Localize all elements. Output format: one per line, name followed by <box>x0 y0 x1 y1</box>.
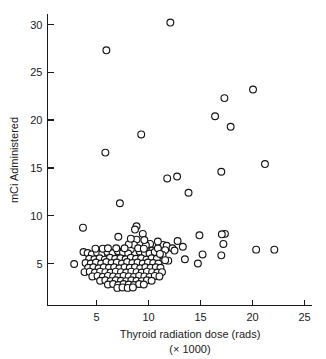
y-tick-label: 20 <box>30 114 42 126</box>
x-axis-title-multiplier: (× 1000) <box>169 343 210 355</box>
y-tick-label: 15 <box>30 162 42 174</box>
data-point <box>127 235 134 242</box>
x-tick-label: 25 <box>298 311 310 323</box>
data-point <box>162 257 169 264</box>
data-point <box>253 246 260 253</box>
data-point <box>140 245 147 252</box>
data-point <box>199 251 206 258</box>
data-point <box>218 252 225 259</box>
x-tick-label: 15 <box>194 311 206 323</box>
y-tick-label: 25 <box>30 66 42 78</box>
data-point <box>140 281 147 288</box>
data-point <box>148 277 155 284</box>
data-point <box>105 245 112 252</box>
data-point <box>271 246 278 253</box>
data-point <box>218 168 225 175</box>
data-point <box>185 189 192 196</box>
data-point <box>195 260 202 267</box>
x-tick-label: 5 <box>93 311 99 323</box>
data-point <box>71 261 78 268</box>
scatter-plot-figure: 51015202530510152025 mCi Administered Th… <box>0 0 326 359</box>
y-tick-label: 10 <box>30 210 42 222</box>
data-point <box>92 245 99 252</box>
data-point <box>250 86 257 93</box>
data-point <box>220 241 227 248</box>
x-axis-title: Thyroid radiation dose (rads) <box>120 328 261 340</box>
data-point <box>179 243 186 250</box>
data-point <box>132 226 139 233</box>
data-point <box>154 238 161 245</box>
data-points-group <box>71 19 278 291</box>
plot-canvas: 51015202530510152025 mCi Administered Th… <box>0 0 326 359</box>
data-point <box>174 173 181 180</box>
data-point <box>167 19 174 26</box>
data-point <box>221 95 228 102</box>
y-tick-label: 5 <box>36 258 42 270</box>
data-point <box>218 231 225 238</box>
data-point <box>227 123 234 130</box>
data-point <box>113 245 120 252</box>
data-point <box>103 47 110 54</box>
data-point <box>130 284 137 291</box>
data-point <box>115 233 122 240</box>
data-point <box>164 175 171 182</box>
data-point <box>156 273 163 280</box>
data-point <box>138 131 145 138</box>
data-point <box>80 224 87 231</box>
data-point <box>102 149 109 156</box>
data-point <box>121 245 128 252</box>
data-point <box>262 161 269 168</box>
data-point <box>171 247 178 254</box>
tick-labels-group: 51015202530510152025 <box>30 19 310 323</box>
x-tick-label: 10 <box>142 311 154 323</box>
x-tick-label: 20 <box>246 311 258 323</box>
data-point <box>182 256 189 263</box>
data-point <box>141 237 148 244</box>
data-point <box>174 238 181 245</box>
y-axis-title: mCi Administered <box>8 117 20 203</box>
data-point <box>117 200 124 207</box>
data-point <box>157 251 164 258</box>
data-point <box>196 232 203 239</box>
data-point <box>212 113 219 120</box>
y-tick-label: 30 <box>30 19 42 31</box>
